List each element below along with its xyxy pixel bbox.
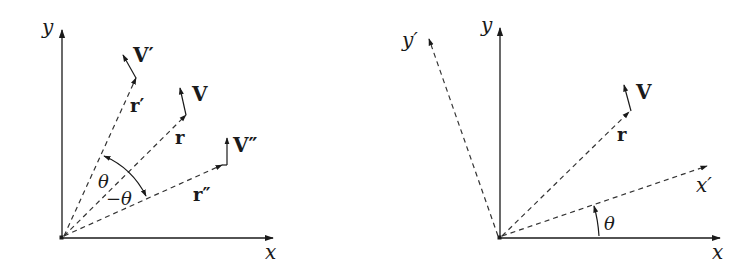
left-panel: y x V′ r′ V r V″ r″ θ −θ — [41, 15, 276, 264]
x-axis-label: x — [712, 240, 723, 264]
position-vector-r — [64, 115, 186, 236]
v-prime-label: V′ — [132, 43, 154, 67]
theta-label: θ — [604, 213, 615, 234]
x-prime-label: x′ — [696, 173, 712, 197]
r-double-prime-label: r″ — [193, 184, 211, 205]
right-panel: y x y′ x′ V r θ — [401, 13, 723, 264]
v-label: V — [635, 80, 652, 104]
x-axis-label: x — [265, 240, 276, 264]
position-vector-r-prime — [64, 78, 136, 236]
velocity-vector-v — [624, 85, 631, 111]
origin-dot — [60, 236, 64, 240]
neg-theta-label: −θ — [106, 188, 132, 209]
v-label: V — [191, 82, 208, 106]
origin-dot — [498, 236, 502, 240]
rotation-diagram: y x V′ r′ V r V″ r″ θ −θ y x y′ — [0, 0, 752, 268]
v-double-prime-label: V″ — [232, 133, 258, 157]
y-prime-axis — [429, 39, 498, 236]
r-prime-label: r′ — [130, 95, 144, 116]
y-prime-label: y′ — [401, 28, 418, 52]
velocity-vector-v — [180, 88, 186, 115]
theta-angle-arrow — [594, 206, 599, 236]
r-label: r — [175, 127, 185, 148]
r-label: r — [617, 124, 627, 145]
y-axis-label: y — [480, 13, 493, 37]
y-axis-label: y — [41, 15, 54, 39]
